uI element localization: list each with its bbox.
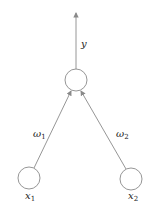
input-label-x1: x1 [25, 190, 35, 203]
output-node [65, 69, 87, 91]
input-node-x1 [18, 167, 40, 189]
weight-label-w1: ω1 [33, 128, 46, 141]
input-label-x2: x2 [128, 190, 138, 203]
weight-label-w2: ω2 [116, 128, 129, 141]
perceptron-diagram: y ω1 ω2 x1 x2 [0, 0, 153, 216]
output-label-y: y [80, 38, 87, 49]
input-node-x2 [120, 168, 142, 190]
